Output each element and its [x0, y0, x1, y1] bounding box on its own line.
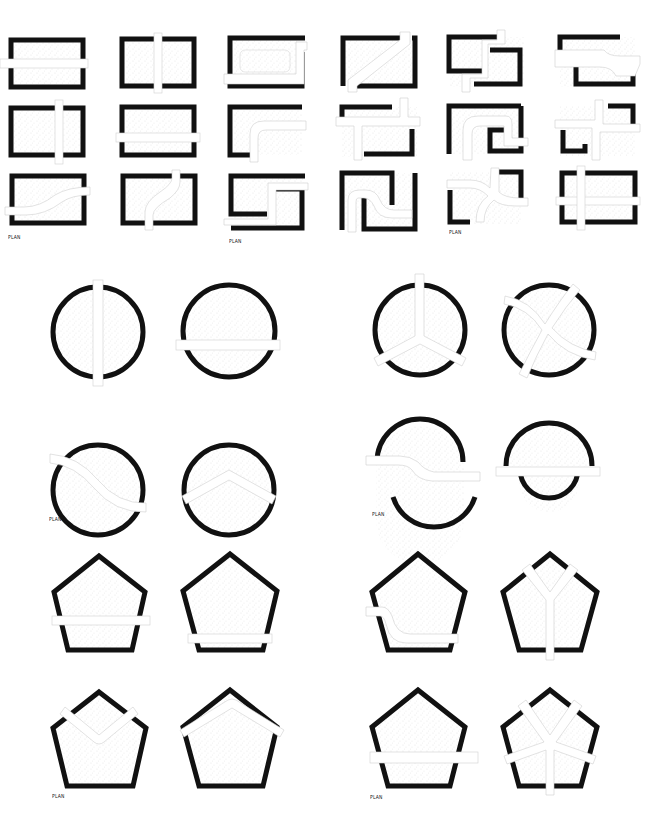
diagram-canvas: [0, 0, 662, 830]
rect-diagram-r1c6: [555, 37, 640, 87]
pentagon-diagram-r1c1: [52, 556, 150, 650]
plan-label: PLAN: [49, 516, 62, 523]
circle-diagram-r2c1: [50, 445, 146, 535]
circle-diagram-r2c4: [496, 421, 600, 512]
rect-diagram-r1c2: [122, 33, 194, 93]
rect-diagram-r1c4: [343, 32, 415, 92]
rect-diagram-r3c1: [5, 176, 90, 223]
pentagon-diagram-r1c4: [503, 554, 597, 660]
rect-diagram-r2c5: [449, 106, 528, 160]
rect-diagram-r2c3: [230, 107, 306, 162]
pentagon-diagram-r2c1: [53, 692, 146, 786]
plan-label: PLAN: [229, 238, 242, 245]
circle-diagrams: [50, 274, 600, 564]
plan-label: PLAN: [8, 234, 21, 241]
rectangle-diagrams: [0, 30, 640, 232]
rect-diagram-r3c5: [447, 168, 528, 224]
rect-diagram-r3c3: [224, 176, 308, 228]
circle-diagram-r1c4: [504, 284, 596, 378]
rect-diagram-r1c1: [0, 40, 88, 87]
rect-diagram-r2c1: [11, 100, 83, 164]
pentagon-diagram-r2c4: [503, 690, 597, 795]
circle-diagram-r1c3: [374, 274, 466, 375]
circle-diagram-r2c3: [366, 419, 480, 564]
circle-diagram-r1c1: [53, 280, 143, 386]
pentagon-diagram-r2c3: [370, 690, 478, 786]
rect-diagram-r1c5: [449, 30, 524, 92]
rect-diagram-r2c6: [555, 100, 640, 160]
rect-diagram-r2c2: [116, 107, 200, 155]
rect-diagram-r3c6: [556, 166, 640, 230]
plan-label: PLAN: [52, 793, 65, 800]
rect-diagram-r2c4: [336, 98, 420, 160]
pentagon-diagram-r1c2: [183, 554, 277, 650]
rect-diagram-r3c2: [123, 170, 195, 230]
pentagon-diagram-r1c3: [366, 554, 465, 650]
plan-label: PLAN: [372, 511, 385, 518]
circle-diagram-r2c2: [182, 445, 276, 535]
pentagon-diagram-r2c2: [180, 690, 284, 786]
plan-label: PLAN: [370, 794, 383, 801]
rect-diagram-r3c4: [342, 173, 415, 232]
pentagon-diagrams: [52, 554, 597, 795]
plan-label: PLAN: [449, 229, 462, 236]
rect-diagram-r1c3: [224, 38, 307, 86]
circle-diagram-r1c2: [176, 285, 280, 377]
